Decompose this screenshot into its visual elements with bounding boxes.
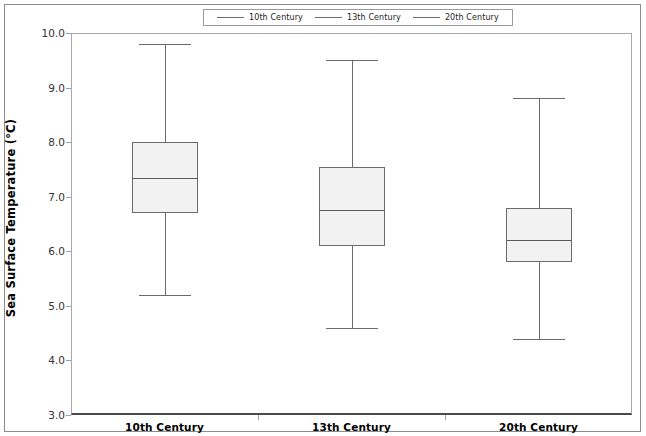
y-tick-mark <box>66 306 71 307</box>
y-tick-label: 8.0 <box>25 136 65 148</box>
whisker-cap-upper <box>513 98 565 99</box>
y-tick-label: 9.0 <box>25 82 65 94</box>
x-tick-mark <box>445 415 446 420</box>
y-tick-label: 10.0 <box>25 27 65 39</box>
whisker-cap-lower <box>326 328 378 329</box>
median-line <box>506 240 572 241</box>
y-tick-label: 3.0 <box>25 409 65 421</box>
whisker-cap-upper <box>326 60 378 61</box>
legend-entry: 13th Century <box>315 13 401 22</box>
x-tick-label: 10th Century <box>75 421 255 433</box>
whisker-upper <box>165 44 166 142</box>
y-axis-title: Sea Surface Temperature (°C) <box>0 0 22 436</box>
y-tick-mark <box>66 415 71 416</box>
whisker-cap-upper <box>139 44 191 45</box>
chart-legend: 10th Century13th Century20th Century <box>203 9 513 26</box>
whisker-cap-lower <box>513 339 565 340</box>
y-tick-mark <box>66 251 71 252</box>
median-line <box>319 210 385 211</box>
whisker-lower <box>539 262 540 338</box>
y-tick-mark <box>66 33 71 34</box>
y-tick-label: 6.0 <box>25 245 65 257</box>
median-line <box>132 178 198 179</box>
x-tick-label: 13th Century <box>262 421 442 433</box>
legend-entry: 10th Century <box>217 13 303 22</box>
y-tick-mark <box>66 197 71 198</box>
legend-line-icon <box>413 17 440 18</box>
whisker-lower <box>352 246 353 328</box>
box-iqr <box>319 167 385 246</box>
chart-root: Sea Surface Temperature (°C) 10.09.08.07… <box>0 0 646 436</box>
whisker-lower <box>165 213 166 295</box>
legend-label: 13th Century <box>347 13 401 22</box>
x-tick-mark <box>258 415 259 420</box>
whisker-upper <box>352 60 353 166</box>
box-iqr <box>506 208 572 263</box>
legend-label: 20th Century <box>445 13 499 22</box>
legend-label: 10th Century <box>249 13 303 22</box>
y-tick-label: 4.0 <box>25 354 65 366</box>
y-tick-mark <box>66 360 71 361</box>
x-tick-label: 20th Century <box>449 421 629 433</box>
y-tick-mark <box>66 88 71 89</box>
whisker-cap-lower <box>139 295 191 296</box>
whisker-upper <box>539 98 540 207</box>
y-tick-label: 7.0 <box>25 191 65 203</box>
y-tick-mark <box>66 142 71 143</box>
legend-line-icon <box>315 17 342 18</box>
legend-entry: 20th Century <box>413 13 499 22</box>
y-tick-label: 5.0 <box>25 300 65 312</box>
legend-line-icon <box>217 17 244 18</box>
